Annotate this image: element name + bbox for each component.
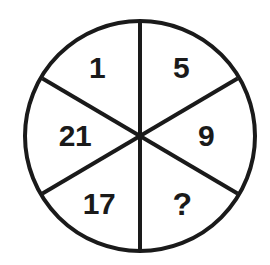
sector-label-bottom-left: 17 <box>83 189 115 219</box>
sector-label-bottom-right-unknown: ? <box>172 188 191 220</box>
circle-diagram <box>0 0 270 265</box>
sector-label-top-left: 1 <box>89 53 105 83</box>
sector-label-top-right: 5 <box>173 53 189 83</box>
puzzle-figure: 1 5 21 9 17 ? <box>0 0 270 265</box>
sector-label-middle-left: 21 <box>59 121 91 151</box>
sector-label-middle-right: 9 <box>198 121 214 151</box>
